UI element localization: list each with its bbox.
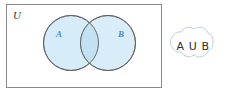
set-a-label: A <box>55 29 62 39</box>
union-expression-label: A U B <box>176 40 209 53</box>
venn-diagram-figure: U A B A U B <box>0 0 226 100</box>
venn-diagram-svg: U A B A U B <box>0 0 226 100</box>
union-callout-cloud: A U B <box>170 27 213 57</box>
universal-set-label: U <box>13 9 22 21</box>
set-b-label: B <box>117 29 124 39</box>
